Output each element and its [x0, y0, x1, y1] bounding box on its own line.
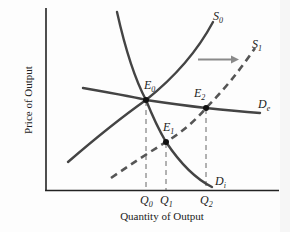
- label-s1: S1: [252, 37, 262, 53]
- curve-s0: [68, 22, 213, 162]
- x-axis-title: Quantity of Output: [120, 210, 204, 222]
- label-e2: E2: [193, 86, 205, 102]
- curve-de: [83, 88, 260, 113]
- point-e2: [203, 105, 209, 111]
- label-e1: E1: [162, 120, 174, 136]
- label-s0: S0: [213, 9, 223, 25]
- tick-q0: Q0: [140, 193, 153, 209]
- label-e0: E0: [143, 78, 155, 94]
- arrow-right-icon: [231, 56, 239, 64]
- label-de: De: [257, 97, 271, 113]
- tick-q1: Q1: [160, 193, 173, 209]
- y-axis-title: Price of Output: [22, 66, 34, 134]
- tick-q2: Q2: [200, 193, 213, 209]
- label-di: Di: [214, 174, 226, 190]
- supply-demand-diagram: S0 S1 De Di E0 E2 E1 Q0 Q1 Q2 Quantity o…: [0, 0, 290, 232]
- point-e0: [143, 97, 149, 103]
- diagram-stage: S0 S1 De Di E0 E2 E1 Q0 Q1 Q2 Quantity o…: [0, 0, 290, 232]
- point-e1: [163, 139, 169, 145]
